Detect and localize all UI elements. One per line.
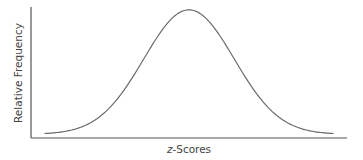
x-axis-label-rest: -Scores [172, 143, 211, 155]
x-axis-label: z-Scores [166, 143, 211, 155]
y-axis-label: Relative Frequency [12, 23, 24, 123]
normal-curve [45, 10, 334, 134]
chart: z-Scores Relative Frequency [0, 0, 363, 160]
